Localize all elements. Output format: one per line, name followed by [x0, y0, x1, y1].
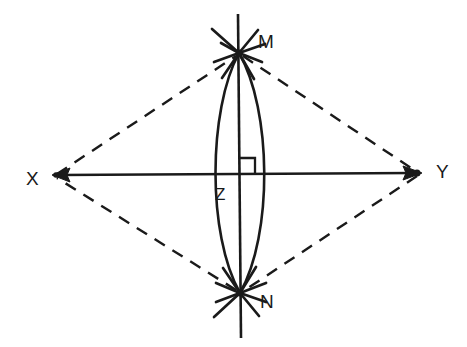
vertex-label-z: Z [215, 185, 225, 204]
point-marker-m [236, 50, 243, 57]
construction-diagram: X Y M N Z [0, 0, 467, 347]
point-marker-y [413, 169, 420, 176]
vertex-label-m: M [258, 31, 274, 52]
point-marker-x [53, 172, 59, 178]
vertex-label-x: X [26, 168, 39, 189]
vertex-label-n: N [260, 291, 274, 312]
vertex-label-y: Y [436, 161, 449, 182]
point-marker-n [237, 290, 244, 297]
geometry-diagram-canvas: X Y M N Z [0, 0, 467, 347]
